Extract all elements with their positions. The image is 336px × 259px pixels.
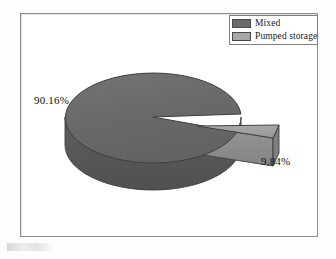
screenshot-canvas: 90.16% 9.84% Mixed Pumped storage [0,0,336,259]
data-label-mixed: 90.16% [34,94,69,106]
legend-item-pumped-storage[interactable]: Pumped storage [232,30,315,42]
chart-legend: Mixed Pumped storage [229,15,318,45]
legend-label-mixed: Mixed [255,18,280,28]
pie-chart-graphic [21,14,319,238]
chart-frame: 90.16% 9.84% Mixed Pumped storage [20,13,318,237]
legend-item-mixed[interactable]: Mixed [232,17,315,29]
scan-artifact [7,243,53,251]
legend-swatch-pumped-storage [232,32,251,41]
legend-label-pumped-storage: Pumped storage [255,31,317,41]
data-label-pumped-storage: 9.84% [261,155,290,167]
pie-slice-mixed-top [65,73,241,163]
legend-swatch-mixed [232,19,251,28]
